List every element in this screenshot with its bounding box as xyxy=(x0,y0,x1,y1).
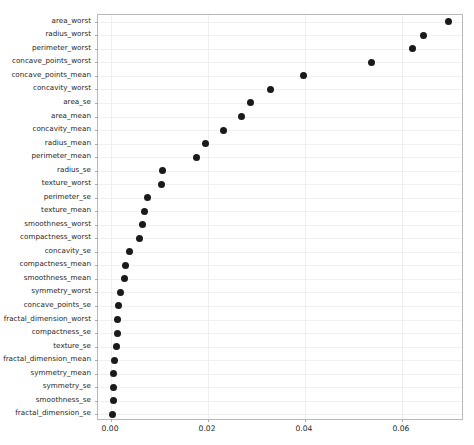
y-tick-label: concave_points_mean xyxy=(11,71,91,79)
gridline-horizontal xyxy=(98,333,462,334)
data-point xyxy=(247,99,254,106)
data-point xyxy=(126,248,133,255)
y-tick-label: concavity_worst xyxy=(33,84,91,92)
x-tick-label: 0.06 xyxy=(392,424,409,433)
y-tick-label: concavity_mean xyxy=(32,125,91,133)
gridline-horizontal xyxy=(98,360,462,361)
gridline-horizontal xyxy=(98,374,462,375)
data-point xyxy=(420,32,427,39)
gridline-horizontal xyxy=(98,238,462,239)
data-point xyxy=(117,289,124,296)
data-point xyxy=(158,181,165,188)
gridline-horizontal xyxy=(98,225,462,226)
gridline-horizontal xyxy=(98,320,462,321)
gridline-horizontal xyxy=(98,171,462,172)
data-point xyxy=(111,357,118,364)
data-point xyxy=(114,330,121,337)
data-point xyxy=(122,262,129,269)
gridline-horizontal xyxy=(98,62,462,63)
gridline-horizontal xyxy=(98,49,462,50)
y-tick-label: fractal_dimension_mean xyxy=(3,355,91,363)
y-tick-label: concavity_se xyxy=(45,247,91,255)
data-point xyxy=(139,221,146,228)
data-point xyxy=(109,411,116,418)
y-tick-label: compactness_worst xyxy=(20,233,91,241)
y-tick-label: compactness_mean xyxy=(19,260,91,268)
data-point xyxy=(267,86,274,93)
data-point xyxy=(121,275,128,282)
gridline-horizontal xyxy=(98,76,462,77)
y-tick-label: compactness_se xyxy=(32,328,91,336)
y-tick-label: concave_points_se xyxy=(24,301,91,309)
gridline-horizontal xyxy=(98,117,462,118)
gridline-horizontal xyxy=(98,184,462,185)
data-point xyxy=(141,208,148,215)
gridline-horizontal xyxy=(98,157,462,158)
data-point xyxy=(144,194,151,201)
y-tick-label: smoothness_mean xyxy=(24,274,91,282)
x-tick-label: 0.04 xyxy=(296,424,313,433)
y-tick-label: texture_se xyxy=(53,342,91,350)
y-tick-label: texture_worst xyxy=(42,179,91,187)
y-tick-label: perimeter_mean xyxy=(31,152,91,160)
data-point xyxy=(110,397,117,404)
gridline-horizontal xyxy=(98,35,462,36)
gridline-horizontal xyxy=(98,252,462,253)
data-point xyxy=(368,59,375,66)
chart-figure: area_worstradius_worstperimeter_worstcon… xyxy=(0,0,474,445)
data-point xyxy=(300,72,307,79)
gridline-horizontal xyxy=(98,211,462,212)
gridline-horizontal xyxy=(98,414,462,415)
gridline-horizontal xyxy=(98,279,462,280)
gridline-horizontal xyxy=(98,306,462,307)
x-tick-mark xyxy=(402,419,403,422)
data-point xyxy=(110,384,117,391)
x-tick-label: 0.00 xyxy=(102,424,119,433)
y-tick-label: fractal_dimension_se xyxy=(15,409,91,417)
gridline-vertical xyxy=(208,15,209,419)
y-tick-label: symmetry_se xyxy=(43,382,91,390)
y-tick-label: perimeter_se xyxy=(44,193,91,201)
y-tick-label: area_worst xyxy=(52,17,91,25)
data-point xyxy=(159,167,166,174)
y-tick-label: area_se xyxy=(63,98,91,106)
gridline-horizontal xyxy=(98,22,462,23)
data-point xyxy=(445,18,452,25)
gridline-horizontal xyxy=(98,89,462,90)
data-point xyxy=(193,154,200,161)
gridline-vertical xyxy=(402,15,403,419)
data-point xyxy=(110,370,117,377)
data-point xyxy=(115,302,122,309)
gridline-horizontal xyxy=(98,130,462,131)
data-point xyxy=(202,140,209,147)
data-point xyxy=(136,235,143,242)
y-tick-label: smoothness_se xyxy=(36,396,91,404)
y-tick-label: fractal_dimension_worst xyxy=(4,315,91,323)
y-tick-label: symmetry_worst xyxy=(31,287,91,295)
y-axis-labels: area_worstradius_worstperimeter_worstcon… xyxy=(0,14,97,420)
plot-area xyxy=(97,14,463,420)
y-tick-label: texture_mean xyxy=(41,206,91,214)
gridline-horizontal xyxy=(98,103,462,104)
y-tick-label: smoothness_worst xyxy=(24,220,91,228)
data-point xyxy=(409,45,416,52)
data-point xyxy=(113,343,120,350)
y-tick-label: symmetry_mean xyxy=(31,369,91,377)
x-tick-mark xyxy=(305,419,306,422)
y-tick-label: radius_worst xyxy=(45,30,91,38)
x-tick-mark xyxy=(208,419,209,422)
y-tick-label: radius_mean xyxy=(45,139,91,147)
data-point xyxy=(220,127,227,134)
gridline-horizontal xyxy=(98,347,462,348)
gridline-horizontal xyxy=(98,292,462,293)
gridline-horizontal xyxy=(98,144,462,145)
y-tick-label: radius_se xyxy=(57,166,91,174)
y-tick-label: area_mean xyxy=(51,112,91,120)
x-tick-label: 0.02 xyxy=(199,424,216,433)
gridline-horizontal xyxy=(98,401,462,402)
y-tick-label: perimeter_worst xyxy=(32,44,91,52)
gridline-horizontal xyxy=(98,265,462,266)
data-point xyxy=(114,316,121,323)
y-tick-label: concave_points_worst xyxy=(12,57,91,65)
gridline-horizontal xyxy=(98,198,462,199)
